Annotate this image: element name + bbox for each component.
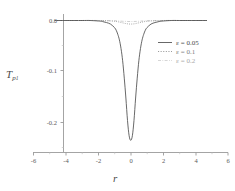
y-tick-label: -0.2	[47, 119, 57, 126]
x-tick-label: 4	[194, 157, 198, 164]
y-tick-label: -0.1	[47, 67, 57, 74]
y-axis-label-subsubscript: 1	[16, 75, 19, 81]
x-tick-label: 0	[129, 157, 132, 164]
y-axis-label: Tp1	[6, 68, 18, 82]
x-tick-label: -2	[96, 157, 101, 164]
x-tick-label: 6	[226, 157, 230, 164]
legend-label-0: ε = 0.05	[176, 39, 199, 47]
chart-figure: 0.0 -0.1 -0.2 -6 -4 -2 0 2 4 6 ε = 0.05 …	[0, 0, 235, 191]
legend-label-2: ε = 0.2	[176, 57, 196, 65]
x-tick-label: 2	[162, 157, 165, 164]
legend: ε = 0.05 ε = 0.1 ε = 0.2	[158, 39, 199, 65]
plot-canvas: 0.0 -0.1 -0.2 -6 -4 -2 0 2 4 6 ε = 0.05 …	[0, 0, 235, 191]
x-tick-label: -6	[31, 157, 37, 164]
legend-label-1: ε = 0.1	[176, 48, 196, 56]
series-line-eps-0.1	[55, 20, 207, 24]
x-axis-label: r	[113, 172, 117, 184]
x-tick-label: -4	[63, 157, 69, 164]
